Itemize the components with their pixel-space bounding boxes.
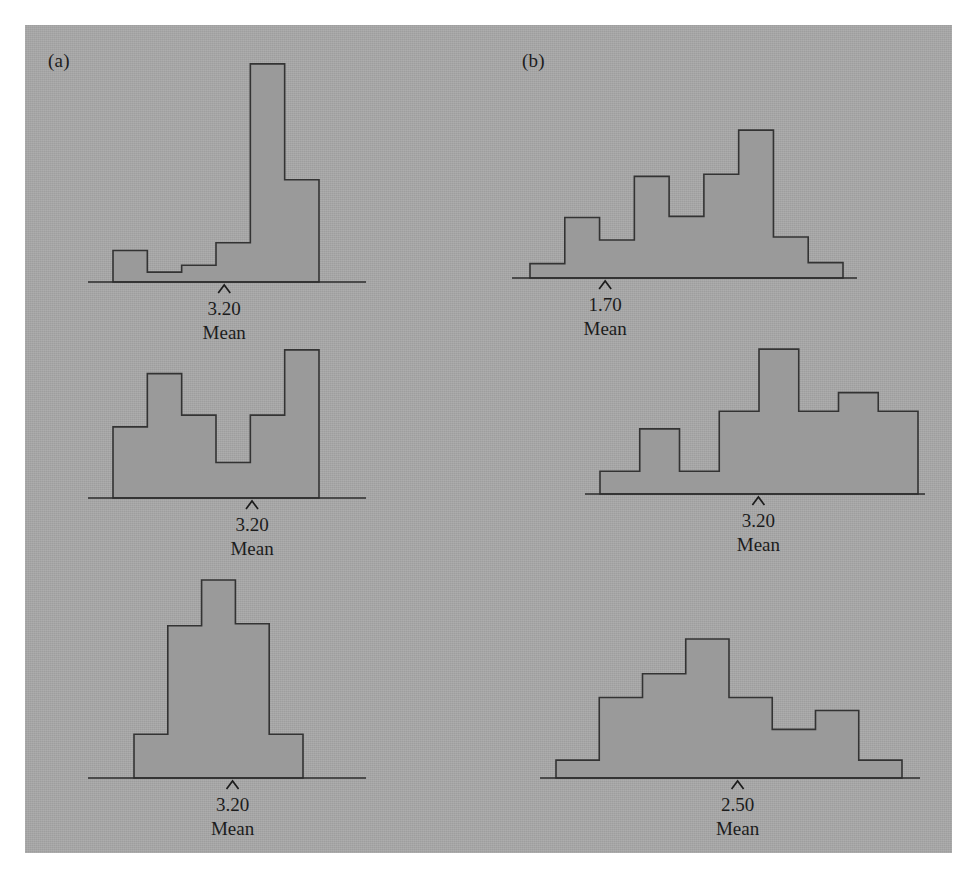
histogram-bars: [530, 130, 843, 278]
mean-value-a1: 3.20: [154, 297, 294, 321]
mean-word-a1: Mean: [154, 321, 294, 345]
panel-label-a: (a): [48, 50, 70, 72]
histogram-b2: [579, 340, 931, 510]
mean-marker-caret-icon: [732, 781, 744, 789]
histogram-bars: [134, 580, 303, 778]
mean-value-a3: 3.20: [163, 793, 303, 817]
mean-caption-a2: 3.20 Mean: [182, 513, 322, 561]
mean-marker-caret-icon: [227, 781, 239, 789]
mean-marker-caret-icon: [599, 281, 611, 289]
mean-caption-b2: 3.20 Mean: [688, 509, 828, 557]
mean-caption-a3: 3.20 Mean: [163, 793, 303, 841]
mean-marker-caret-icon: [218, 285, 230, 293]
mean-word-b2: Mean: [688, 533, 828, 557]
mean-value-b3: 2.50: [668, 793, 808, 817]
mean-word-b1: Mean: [535, 317, 675, 341]
histogram-bars: [113, 350, 319, 498]
histogram-bars: [556, 639, 902, 778]
mean-marker-caret-icon: [246, 501, 258, 509]
histogram-a3: [82, 570, 372, 794]
histogram-bars: [113, 64, 319, 282]
mean-caption-b1: 1.70 Mean: [535, 293, 675, 341]
mean-caption-b3: 2.50 Mean: [668, 793, 808, 841]
mean-value-b1: 1.70: [535, 293, 675, 317]
histogram-a2: [82, 340, 372, 514]
histogram-b1: [506, 120, 863, 294]
mean-word-b3: Mean: [668, 817, 808, 841]
mean-word-a2: Mean: [182, 537, 322, 561]
figure-root: (a) (b) 3.20 Mean 3.20 Mean 3.20 Mean 1.…: [0, 0, 977, 878]
histogram-a1: [82, 52, 372, 298]
mean-caption-a1: 3.20 Mean: [154, 297, 294, 345]
histogram-bars: [600, 349, 918, 494]
mean-marker-caret-icon: [752, 497, 764, 505]
mean-value-b2: 3.20: [688, 509, 828, 533]
histogram-b3: [534, 630, 926, 794]
mean-value-a2: 3.20: [182, 513, 322, 537]
mean-word-a3: Mean: [163, 817, 303, 841]
panel-label-b: (b): [522, 50, 545, 72]
